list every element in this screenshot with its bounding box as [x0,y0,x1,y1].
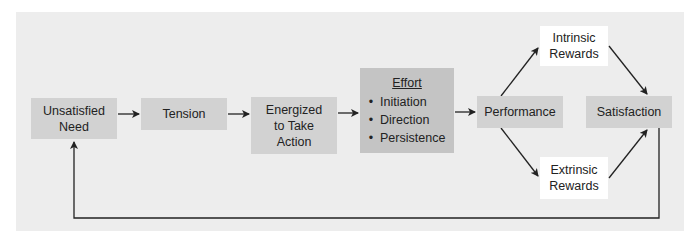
node-unsatisfied-need: Unsatisfied Need [31,98,117,139]
node-label: Action [277,134,312,150]
effort-item: Direction [369,111,446,129]
effort-item: Persistence [369,129,446,147]
node-label: Rewards [549,178,598,194]
node-label: Rewards [549,46,598,62]
node-label: Satisfaction [597,104,662,120]
node-label: Energized [266,102,322,118]
node-label: to Take [274,118,314,134]
effort-title: Effort [392,75,422,91]
node-energized: Energized to Take Action [251,97,337,154]
node-effort: Effort Initiation Direction Persistence [360,68,454,153]
node-label: Need [59,119,89,135]
node-performance: Performance [477,96,563,128]
arrow-performance-to-intrinsic [501,48,538,96]
node-tension: Tension [141,98,227,130]
node-label: Performance [484,104,556,120]
node-label: Tension [162,106,205,122]
node-label: Unsatisfied [43,103,105,119]
arrow-performance-to-extrinsic [501,128,538,176]
arrow-intrinsic-to-satisfaction [609,46,647,94]
node-label: Extrinsic [550,162,597,178]
node-intrinsic-rewards: Intrinsic Rewards [540,26,608,66]
node-label: Intrinsic [552,30,595,46]
node-satisfaction: Satisfaction [586,96,672,128]
arrow-extrinsic-to-satisfaction [609,130,647,178]
node-extrinsic-rewards: Extrinsic Rewards [540,157,608,199]
effort-list: Initiation Direction Persistence [369,93,446,147]
effort-item: Initiation [369,93,446,111]
